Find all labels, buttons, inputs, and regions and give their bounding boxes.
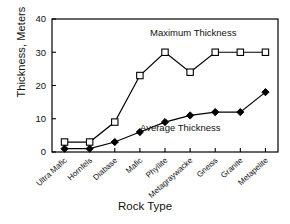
data-point-marker [112,119,118,125]
y-tick-label: 0 [41,146,46,157]
data-point-marker [212,49,218,55]
data-point-marker [187,112,194,119]
y-tick-label: 30 [35,47,46,58]
data-point-marker [262,49,268,55]
data-point-marker [61,145,68,152]
x-tick-label: Gneiss [195,156,220,179]
data-point-marker [86,139,92,145]
data-point-marker [187,69,193,75]
x-tick-label: Ultra Mafic [34,156,68,188]
x-tick-label: Diabase [91,155,119,182]
x-axis-title: Rock Type [0,200,290,212]
y-tick-label: 40 [35,13,46,24]
plot-area: 010203040Ultra MaficHornfelsDiabaseMafic… [0,0,290,224]
chart-figure: Thickness, Meters 010203040Ultra MaficHo… [0,0,290,224]
y-tick-label: 10 [35,113,46,124]
data-point-marker [111,138,118,145]
series-label-maximum-thickness: Maximum Thickness [150,27,237,38]
x-tick-label: Metagraywacke [147,155,195,200]
data-point-marker [162,49,168,55]
data-point-marker [137,72,143,78]
data-point-marker [86,145,93,152]
data-point-marker [212,109,219,116]
x-tick-label: Hornfels [66,156,94,183]
data-point-marker [61,139,67,145]
data-point-marker [237,49,243,55]
y-tick-label: 20 [35,80,46,91]
x-tick-label: Mafic [124,156,144,175]
series-label-average-thickness: Average Thickness [140,122,221,133]
